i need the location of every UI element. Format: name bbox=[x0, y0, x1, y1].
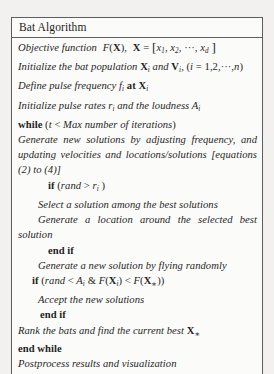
pseudocode-line-rank-bats: Rank the bats and find the current best … bbox=[18, 323, 257, 342]
algorithm-title: Bat Algorithm bbox=[12, 18, 262, 38]
pseudocode-line-define-pulse-frequency: Define pulse frequency fi at Xi bbox=[18, 78, 257, 97]
pseudocode-line-select-solution: Select a solution among the best solutio… bbox=[38, 197, 257, 212]
pseudocode-line-end-if-1: end if bbox=[48, 243, 257, 258]
pseudocode-line-generate-new-solutions: Generate new solutions by adjusting freq… bbox=[18, 132, 257, 178]
pseudocode-line-objective-function: Objective function F(X), X = [x1, x2, ··… bbox=[18, 40, 257, 59]
pseudocode-line-accept-new-solutions: Accept the new solutions bbox=[38, 292, 257, 307]
pseudocode-line-postprocess: Postprocess results and visualization bbox=[18, 356, 257, 371]
pseudocode-line-while-statement: while (t < Max number of iterations) bbox=[18, 117, 257, 132]
pseudocode-line-if-rand-greater-r: if (rand > ri ) bbox=[48, 178, 257, 197]
pseudocode-line-if-rand-less-a: if (rand < Ai & F(Xi) < F(X∗)) bbox=[32, 273, 257, 292]
bat-algorithm-box: Bat Algorithm Objective function F(X), X… bbox=[11, 17, 263, 374]
pseudocode-body: Objective function F(X), X = [x1, x2, ··… bbox=[12, 38, 262, 374]
pseudocode-line-generate-location: Generate a location around the selected … bbox=[18, 212, 257, 242]
pseudocode-line-initialize-population: Initialize the bat population Xi and Vi,… bbox=[18, 59, 257, 78]
pseudocode-line-end-if-2: end if bbox=[40, 307, 257, 322]
pseudocode-line-end-while: end while bbox=[18, 341, 257, 356]
pseudocode-line-initialize-pulse-rates: Initialize pulse rates ri and the loudne… bbox=[18, 98, 257, 117]
pseudocode-line-generate-flying-randomly: Generate a new solution by flying random… bbox=[38, 258, 257, 273]
